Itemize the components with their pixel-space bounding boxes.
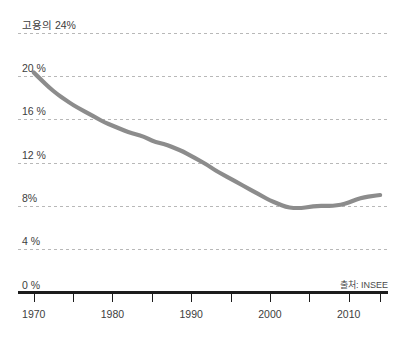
x-axis-label-2010: 2010 xyxy=(337,308,361,320)
y-axis-label-0: 0 % xyxy=(22,279,40,291)
x-axis-label-1980: 1980 xyxy=(101,308,125,320)
y-axis-label-16: 16 % xyxy=(22,105,46,117)
series-line-0 xyxy=(34,73,380,208)
y-axis-label-12: 12 % xyxy=(22,149,46,161)
source-attribution: 출처: INSEE xyxy=(340,279,388,290)
x-axis-ticks xyxy=(35,294,381,302)
data-series xyxy=(34,73,380,208)
chart-container: 0 %4 %8%12 %16 %20 %고용의 24% 197019801990… xyxy=(0,0,405,337)
x-axis-labels: 19701980199020002010 xyxy=(22,308,360,320)
line-chart: 0 %4 %8%12 %16 %20 %고용의 24% 197019801990… xyxy=(0,0,405,337)
y-axis-label-24: 고용의 24% xyxy=(22,19,76,31)
y-axis-label-8: 8% xyxy=(22,192,37,204)
x-axis-label-1970: 1970 xyxy=(22,308,46,320)
y-axis-label-4: 4 % xyxy=(22,235,40,247)
x-axis-label-2000: 2000 xyxy=(258,308,282,320)
gridlines xyxy=(18,33,388,250)
x-axis-label-1990: 1990 xyxy=(180,308,204,320)
